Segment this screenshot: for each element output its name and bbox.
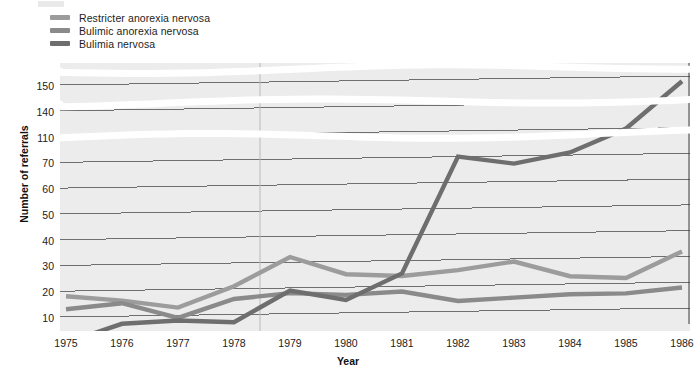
y-axis-tick-40: 40	[42, 235, 54, 247]
x-axis-tick-1981: 1981	[390, 337, 413, 349]
x-axis-tick-1984: 1984	[558, 337, 581, 349]
legend-label-bulimia: Bulimia nervosa	[79, 38, 155, 50]
y-axis-title: Number of referrals	[18, 114, 30, 234]
legend-label-restricter: Restricter anorexia nervosa	[79, 12, 210, 24]
legend-item-bulimic: Bulimic anorexia nervosa	[50, 25, 290, 36]
chart-figure: Restricter anorexia nervosa Bulimic anor…	[0, 0, 696, 375]
gridline-30	[60, 256, 690, 265]
legend-item-bulimia: Bulimia nervosa	[50, 38, 290, 49]
gridline-40	[60, 231, 690, 240]
plot-area	[60, 63, 690, 331]
gridline-70	[60, 153, 690, 162]
scan-band	[60, 130, 690, 138]
x-axis-tick-1980: 1980	[334, 337, 357, 349]
series-line-bulimic-anorexia-nervosa	[66, 288, 682, 318]
x-axis-title: Year	[0, 355, 696, 367]
y-axis-tick-70: 70	[42, 157, 54, 169]
y-axis-tick-110: 110	[37, 132, 54, 144]
y-axis-tick-150: 150	[36, 80, 54, 92]
legend-swatch-bulimia	[50, 41, 70, 46]
y-axis-tick-60: 60	[42, 183, 54, 195]
x-axis-tick-1982: 1982	[446, 337, 469, 349]
gridline-50	[60, 205, 690, 214]
legend-swatch-restricter	[50, 15, 70, 20]
gridline-150	[60, 76, 690, 85]
gridline-60	[60, 179, 690, 188]
y-axis-tick-50: 50	[42, 209, 54, 221]
x-axis-tick-1983: 1983	[502, 337, 525, 349]
legend-swatch-bulimic	[50, 28, 70, 33]
x-axis-tick-1976: 1976	[110, 337, 133, 349]
legend-item-restricter: Restricter anorexia nervosa	[50, 12, 290, 23]
chart-legend: Restricter anorexia nervosa Bulimic anor…	[50, 12, 290, 51]
scan-artifact	[38, 1, 64, 7]
scan-band	[60, 99, 690, 107]
y-axis-tick-140: 140	[36, 106, 54, 118]
plot-canvas	[60, 63, 690, 331]
x-axis-tick-labels: 1975197619771978197919801981198219831984…	[60, 337, 690, 353]
scan-band	[60, 65, 690, 74]
y-axis-tick-30: 30	[42, 260, 54, 272]
y-axis-tick-10: 10	[42, 312, 54, 324]
x-axis-tick-1977: 1977	[166, 337, 189, 349]
y-axis-tick-20: 20	[42, 286, 54, 298]
legend-label-bulimic: Bulimic anorexia nervosa	[79, 25, 199, 37]
x-axis-tick-1975: 1975	[54, 337, 77, 349]
x-axis-tick-1978: 1978	[222, 337, 245, 349]
x-axis-tick-1979: 1979	[278, 337, 301, 349]
x-axis-tick-1985: 1985	[614, 337, 637, 349]
series-line-restricter-anorexia-nervosa	[66, 251, 682, 307]
x-axis-tick-1986: 1986	[670, 337, 693, 349]
